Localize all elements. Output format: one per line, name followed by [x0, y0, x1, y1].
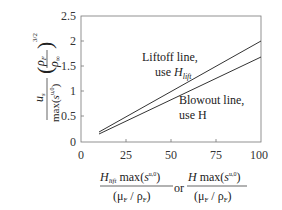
- x-tick-label: 75: [210, 148, 222, 162]
- y-tick-label: 2: [70, 34, 76, 48]
- x-tick-label: 50: [165, 148, 177, 162]
- svg-text:us: us: [32, 93, 47, 102]
- svg-text:Hlift max(su,0): Hlift max(su,0): [99, 170, 160, 185]
- x-axis: 0 25 50 75 100: [78, 139, 268, 162]
- svg-text:3/2: 3/2: [31, 33, 39, 42]
- svg-text:use Hlift: use Hlift: [155, 65, 192, 81]
- svg-text:ρF: ρF: [33, 55, 48, 67]
- svg-text:(μF / ρF): (μF / ρF): [194, 189, 232, 204]
- x-tick-label: 25: [120, 148, 132, 162]
- x-tick-label: 0: [78, 148, 84, 162]
- svg-text:ρ∞: ρ∞: [47, 56, 62, 68]
- y-axis-label: us max(su,0) ( ρF ρ∞ ) 3/2: [31, 33, 62, 122]
- x-axis-label: Hlift max(su,0) (μF / ρF) or H max(su,0)…: [99, 170, 247, 204]
- y-tick-label: 2.5: [61, 9, 76, 23]
- y-tick-label: 0: [70, 135, 76, 149]
- svg-text:Blowout line,: Blowout line,: [179, 93, 244, 107]
- svg-text:(μF / ρF): (μF / ρF): [113, 189, 151, 204]
- chart-figure: 2.5 2 1.5 1 0.5 0 0 25 50 75 100 Liftoff…: [0, 0, 282, 210]
- blowout-annotation: Blowout line, use H: [179, 93, 244, 122]
- svg-text:H max(su,0): H max(su,0): [187, 170, 241, 184]
- liftoff-annotation: Liftoff line, use Hlift: [142, 50, 198, 81]
- svg-text:or: or: [174, 181, 184, 195]
- plot-frame: [81, 16, 261, 142]
- y-axis: 2.5 2 1.5 1 0.5 0: [61, 9, 84, 149]
- svg-text:use H: use H: [179, 108, 207, 122]
- svg-text:max(su,0): max(su,0): [49, 84, 62, 122]
- y-tick-label: 0.5: [61, 109, 76, 123]
- svg-text:Liftoff line,: Liftoff line,: [142, 50, 198, 64]
- y-tick-label: 1.5: [61, 59, 76, 73]
- x-tick-label: 100: [250, 148, 268, 162]
- y-tick-label: 1: [70, 84, 76, 98]
